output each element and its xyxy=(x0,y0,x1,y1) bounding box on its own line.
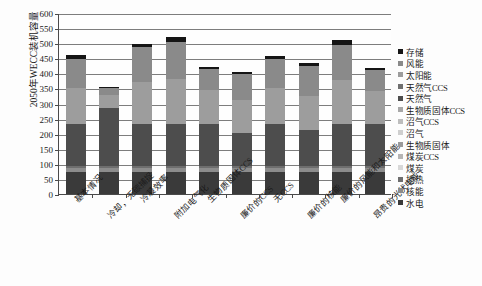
legend-label: 沼气CCS xyxy=(406,115,439,127)
bar-segment xyxy=(132,166,152,168)
legend-item[interactable]: 煤炭 xyxy=(398,162,482,174)
legend-swatch-icon xyxy=(398,165,403,170)
legend-swatch-icon xyxy=(398,200,403,205)
bar-segment xyxy=(332,40,352,44)
bar-segment xyxy=(132,82,152,124)
bar-segment xyxy=(132,47,152,81)
bar-segment xyxy=(299,63,319,65)
bar-segment xyxy=(99,108,119,166)
legend-item[interactable]: 核能 xyxy=(398,185,482,197)
y-tick-label: 400 xyxy=(40,69,54,79)
y-tick-label: 50 xyxy=(44,175,53,185)
bar-segment xyxy=(166,37,186,42)
legend-item[interactable]: 沼气CCS xyxy=(398,116,482,128)
y-tick-label: 350 xyxy=(40,84,54,94)
bar-segment xyxy=(199,69,219,91)
bar-segment xyxy=(232,74,252,100)
y-tick-label: 600 xyxy=(40,9,54,19)
bar-segment xyxy=(66,166,86,168)
legend-item[interactable]: 天然气 xyxy=(398,92,482,104)
legend-item[interactable]: 天然气CCS xyxy=(398,81,482,93)
bar-segment xyxy=(332,168,352,172)
bar-segment xyxy=(66,59,86,88)
bar-segment xyxy=(166,124,186,166)
bar-segment xyxy=(166,166,186,168)
legend-swatch-icon xyxy=(398,72,403,77)
bar-segment xyxy=(265,124,285,166)
bar-segment xyxy=(99,88,119,95)
legend-swatch-icon xyxy=(398,142,403,147)
y-tick-label: 500 xyxy=(40,39,54,49)
y-tick-label: 300 xyxy=(40,100,54,110)
legend-swatch-icon xyxy=(398,107,403,112)
bar-segment xyxy=(299,66,319,97)
legend-label: 沼气 xyxy=(406,127,423,139)
legend-label: 生物质固体CCS xyxy=(406,104,465,116)
legend-swatch-icon xyxy=(398,49,403,54)
legend-item[interactable]: 生物质固体CCS xyxy=(398,104,482,116)
bar-segment xyxy=(132,124,152,166)
bar-segment xyxy=(166,168,186,172)
legend-item[interactable]: 沼气 xyxy=(398,127,482,139)
bar-segment xyxy=(265,59,285,87)
legend: 存储风能太阳能天然气CCS天然气生物质固体CCS沼气CCS沼气生物质固体煤炭CC… xyxy=(398,46,482,208)
bar-column[interactable] xyxy=(166,37,186,194)
legend-item[interactable]: 地热 xyxy=(398,174,482,186)
bar-column[interactable] xyxy=(332,40,352,194)
bar-segment xyxy=(299,96,319,130)
bar-segment xyxy=(99,95,119,108)
bar-segment xyxy=(66,88,86,124)
y-tick-label: 550 xyxy=(40,24,54,34)
legend-label: 存储 xyxy=(406,46,423,58)
bar-column[interactable] xyxy=(265,56,285,194)
bars-layer xyxy=(59,14,391,194)
bar-segment xyxy=(132,44,152,48)
legend-label: 煤炭 xyxy=(406,162,423,174)
legend-label: 核能 xyxy=(406,185,423,197)
bar-segment xyxy=(66,55,86,59)
bar-segment xyxy=(166,79,186,124)
bar-segment xyxy=(66,124,86,166)
legend-swatch-icon xyxy=(398,96,403,101)
bar-segment xyxy=(299,168,319,172)
legend-swatch-icon xyxy=(398,154,403,159)
bar-segment xyxy=(299,130,319,166)
legend-swatch-icon xyxy=(398,130,403,135)
bar-segment xyxy=(99,166,119,168)
legend-item[interactable]: 风能 xyxy=(398,58,482,70)
x-axis-labels: 基本情况冷却，无碳捕捉冷凝效率附加电气化生物质固体CCS廉价的CCS无CCS廉价… xyxy=(58,196,391,284)
legend-label: 生物质固体 xyxy=(406,139,450,151)
y-tick-label: 450 xyxy=(40,54,54,64)
bar-segment xyxy=(232,100,252,133)
legend-swatch-icon xyxy=(398,188,403,193)
legend-item[interactable]: 煤炭CCS xyxy=(398,150,482,162)
bar-column[interactable] xyxy=(199,67,219,194)
bar-segment xyxy=(199,67,219,69)
legend-swatch-icon xyxy=(398,177,403,182)
bar-segment xyxy=(166,42,186,79)
bar-segment xyxy=(99,168,119,172)
bar-column[interactable] xyxy=(299,63,319,194)
y-tick-label: 0 xyxy=(49,190,54,200)
legend-item[interactable]: 生物质固体 xyxy=(398,139,482,151)
bar-column[interactable] xyxy=(66,55,86,194)
bar-segment xyxy=(265,88,285,124)
bar-segment xyxy=(199,168,219,172)
bar-segment xyxy=(232,72,252,74)
bar-segment xyxy=(265,166,285,168)
bar-segment xyxy=(265,168,285,172)
legend-item[interactable]: 太阳能 xyxy=(398,69,482,81)
legend-label: 煤炭CCS xyxy=(406,150,439,162)
legend-label: 水电 xyxy=(406,197,423,209)
legend-swatch-icon xyxy=(398,119,403,124)
legend-item[interactable]: 存储 xyxy=(398,46,482,58)
bar-segment xyxy=(332,80,352,124)
stacked-bar-chart: 2050年WECC装机容量 05010015020025030035040045… xyxy=(0,0,482,286)
bar-segment xyxy=(365,91,385,124)
bar-segment xyxy=(332,166,352,168)
bar-segment xyxy=(99,87,119,88)
bar-segment xyxy=(332,45,352,81)
legend-item[interactable]: 水电 xyxy=(398,197,482,209)
legend-label: 风能 xyxy=(406,57,423,69)
legend-label: 天然气 xyxy=(406,92,432,104)
